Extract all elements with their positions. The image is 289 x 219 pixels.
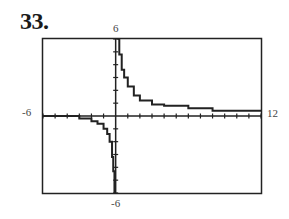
graph-plot [0,0,289,219]
left-branch-curve [43,116,114,193]
right-branch-curve [117,39,261,111]
